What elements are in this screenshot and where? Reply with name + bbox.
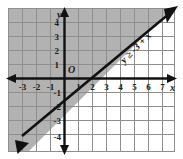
- y-tick-label: 1: [55, 60, 60, 70]
- x-tick-label: 5: [132, 82, 137, 92]
- origin-label: O: [68, 64, 75, 75]
- x-tick-label: 4: [118, 82, 123, 92]
- graph-figure: -3 -2 -1 1 2 3 4 5 6 7 4 3 2 1 -1 -2 -3 …: [0, 0, 183, 159]
- x-tick-label: -2: [33, 82, 41, 92]
- y-tick-label: -4: [54, 132, 62, 142]
- y-tick-label: -3: [54, 116, 62, 126]
- x-tick-label: 7: [160, 82, 165, 92]
- y-tick-label: 2: [55, 46, 60, 56]
- coordinate-plane-svg: -3 -2 -1 1 2 3 4 5 6 7 4 3 2 1 -1 -2 -3 …: [0, 0, 183, 159]
- y-tick-label: 3: [55, 32, 60, 42]
- x-tick-label: 3: [104, 82, 109, 92]
- y-tick-label: -2: [54, 102, 62, 112]
- y-axis-label: y: [56, 9, 62, 20]
- x-tick-label: -3: [19, 82, 27, 92]
- x-tick-label: 6: [146, 82, 151, 92]
- y-tick-label: -1: [54, 88, 62, 98]
- x-tick-label: 1: [76, 82, 81, 92]
- x-axis-label: x: [169, 82, 175, 93]
- x-tick-label: 2: [90, 82, 95, 92]
